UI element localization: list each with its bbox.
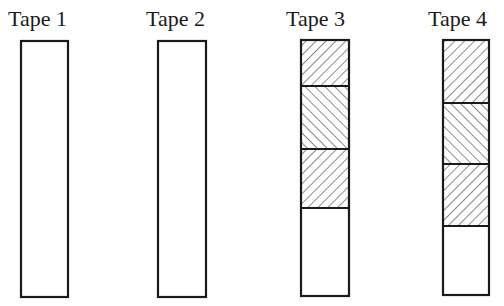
tape-3-segment-3 xyxy=(301,149,349,208)
tape-3-segment-2 xyxy=(301,86,349,149)
tape-4-segment-2 xyxy=(443,103,489,164)
tape-4 xyxy=(443,40,489,295)
tape-4-segment-3 xyxy=(443,164,489,226)
tape-3-segment-1 xyxy=(301,40,349,86)
tape-2 xyxy=(158,41,206,297)
tape-2-outline xyxy=(158,41,206,297)
tape-1-outline xyxy=(21,41,68,297)
tape-1 xyxy=(21,41,68,297)
tape-3 xyxy=(301,40,349,296)
tape-diagram xyxy=(0,0,504,306)
tape-4-segment-1 xyxy=(443,40,489,103)
